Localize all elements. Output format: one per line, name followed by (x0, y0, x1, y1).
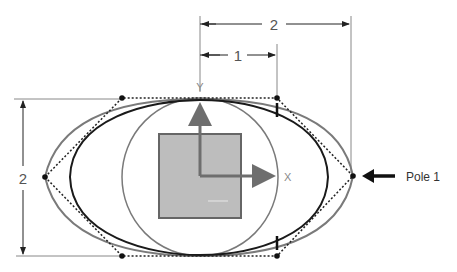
y-axis-label: Y (196, 81, 204, 93)
dimension-label-left: 2 (19, 170, 27, 187)
pole-top-left (119, 95, 125, 101)
dimension-top-inner: 1 (200, 47, 275, 64)
dimension-label-top-outer: 2 (270, 16, 278, 33)
pole-left (42, 174, 48, 180)
dimension-left-height: 2 (19, 101, 27, 254)
dimension-top-outer: 2 (200, 16, 349, 33)
pole-diagram: 2 1 2 Y X (0, 0, 457, 272)
dimension-label-top-inner: 1 (234, 47, 242, 64)
pole-callout: Pole 1 (362, 169, 440, 184)
pole-label: Pole 1 (406, 170, 440, 184)
x-axis-label: X (284, 171, 292, 183)
pole-top-right (274, 95, 280, 101)
pole-bottom-left (119, 253, 125, 259)
pole-right (350, 173, 356, 179)
pole-bottom-right (274, 253, 280, 259)
callout-arrow-icon (362, 169, 374, 183)
